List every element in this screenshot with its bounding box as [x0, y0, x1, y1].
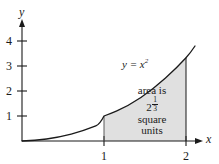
x-axis-label: x: [206, 133, 211, 145]
y-tick-label-4: 4: [6, 35, 12, 47]
y-tick-label-2: 2: [6, 85, 12, 97]
y-tick-label-1: 1: [6, 110, 12, 122]
area-annotation-line-1: area is: [124, 85, 180, 96]
curve-equation-base: y = x: [122, 58, 145, 70]
area-annotation-mixed-number: 213: [124, 96, 180, 113]
x-tick-label-2: 2: [183, 150, 189, 162]
y-axis-arrowhead: [19, 19, 25, 27]
curve-equation-exponent: 2: [145, 57, 149, 65]
fraction-numerator: 1: [152, 96, 158, 104]
y-axis-label: y: [19, 6, 24, 18]
x-tick-label-1: 1: [101, 150, 107, 162]
figure-container: y x 1 2 3 4 1 2 y = x2 area is 213 squar…: [0, 0, 219, 164]
curve-equation-label: y = x2: [122, 59, 148, 70]
x-axis-arrowhead: [195, 138, 203, 144]
mixed-number-whole: 2: [146, 102, 152, 113]
plot-canvas: [0, 0, 219, 164]
y-tick-label-3: 3: [6, 60, 12, 72]
area-annotation: area is 213 square units: [124, 85, 180, 136]
area-annotation-line-4: units: [124, 125, 180, 136]
mixed-number-fraction: 13: [152, 96, 158, 112]
fraction-denominator: 3: [152, 104, 158, 113]
